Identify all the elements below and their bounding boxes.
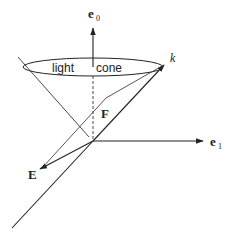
F-label: F <box>101 106 109 121</box>
cone-label: cone <box>96 61 122 75</box>
E-vector <box>40 141 93 169</box>
k-label: k <box>170 51 176 65</box>
e1-label: e <box>210 134 216 149</box>
light-label: light <box>52 61 75 75</box>
null-line-extension <box>12 141 93 228</box>
e0-subscript: 0 <box>96 14 100 23</box>
e0-label: e <box>88 6 94 21</box>
light-cone-diagram: e 0 e 1 k light cone F E <box>0 0 230 236</box>
E-label: E <box>28 167 37 182</box>
e1-subscript: 1 <box>218 142 222 151</box>
